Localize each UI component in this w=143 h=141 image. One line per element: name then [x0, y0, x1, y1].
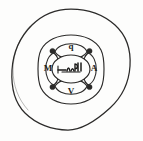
joint-se-icon — [87, 84, 92, 89]
joint-sw-icon — [50, 84, 55, 89]
direction-label-down: V — [68, 86, 75, 96]
direction-label-left: M — [44, 63, 53, 73]
directional-wheel-figure: q A V M — [0, 0, 143, 141]
joint-ne-icon — [87, 48, 92, 53]
joint-nw-icon — [50, 48, 55, 53]
direction-label-up: q — [68, 41, 73, 51]
direction-label-right: A — [91, 63, 98, 73]
sketch-canvas: Directional wheel sketch — [0, 0, 143, 141]
center-hub-group[interactable] — [52, 55, 90, 83]
